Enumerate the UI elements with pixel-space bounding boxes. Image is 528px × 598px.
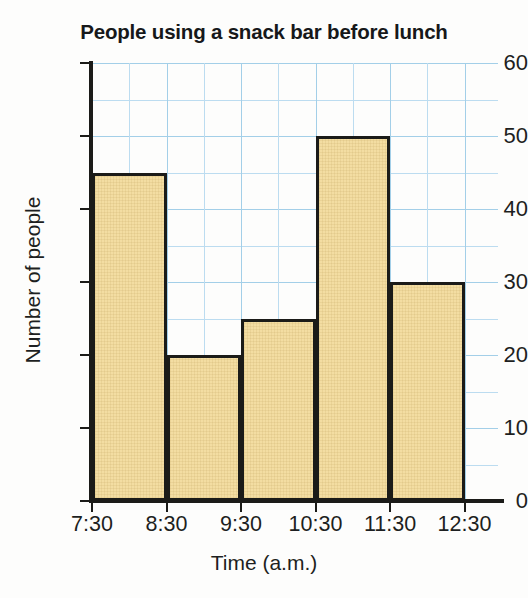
- y-tick-label: 60: [452, 50, 528, 76]
- y-tick-mark: [80, 354, 91, 356]
- y-tick-mark: [80, 62, 91, 64]
- plot-area: [92, 63, 498, 501]
- bar-chart-figure: People using a snack bar before lunch 01…: [0, 0, 528, 598]
- y-tick-mark: [80, 208, 91, 210]
- y-axis-title: Number of people: [21, 90, 45, 470]
- x-axis-title: Time (a.m.): [0, 551, 528, 575]
- y-tick-label: 50: [452, 123, 528, 149]
- x-tick-mark: [240, 501, 242, 512]
- bar-730-830[interactable]: [92, 173, 167, 502]
- x-tick-mark: [166, 501, 168, 512]
- bar-1130-1230[interactable]: [390, 282, 465, 501]
- y-tick-label: 10: [452, 415, 528, 441]
- x-tick-mark: [91, 501, 93, 512]
- x-tick-label: 12:30: [415, 512, 515, 537]
- bar-1030-1130[interactable]: [316, 136, 391, 501]
- y-tick-mark: [80, 281, 91, 283]
- x-tick-mark: [315, 501, 317, 512]
- bars-group: [92, 63, 498, 501]
- y-tick-mark: [80, 135, 91, 137]
- chart-title: People using a snack bar before lunch: [0, 20, 528, 44]
- y-tick-mark: [80, 500, 91, 502]
- y-tick-mark: [80, 427, 91, 429]
- x-tick-mark: [464, 501, 466, 512]
- bar-930-1030[interactable]: [241, 319, 316, 502]
- bar-830-930[interactable]: [167, 355, 242, 501]
- y-tick-label: 30: [452, 269, 528, 295]
- y-tick-label: 20: [452, 342, 528, 368]
- x-tick-mark: [389, 501, 391, 512]
- y-tick-label: 40: [452, 196, 528, 222]
- x-axis-line: [89, 499, 504, 503]
